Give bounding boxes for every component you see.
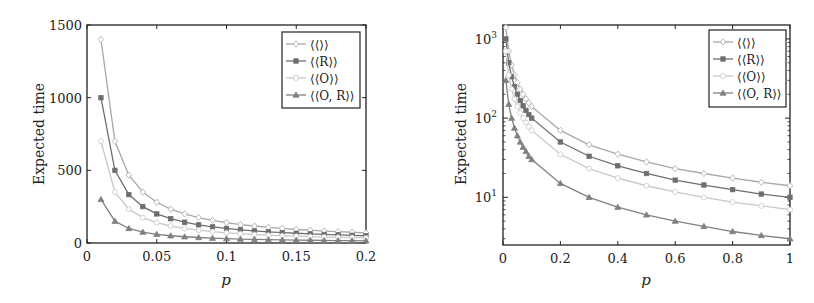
y-tick-label: 102	[475, 109, 497, 126]
series-marker	[702, 183, 706, 187]
series-marker	[112, 190, 117, 195]
series-marker	[644, 159, 650, 165]
series-marker	[788, 195, 792, 199]
series-marker	[512, 96, 517, 101]
series-o	[98, 139, 368, 241]
x-tick-label: 0.1	[216, 249, 237, 264]
x-tick-label: 0.8	[722, 251, 743, 266]
series-marker	[644, 183, 649, 188]
series-marker	[587, 166, 592, 171]
right-legend: ⟨⟨⟩⟩⟨⟨R⟩⟩⟨⟨O⟩⟩⟨⟨O, R⟩⟩	[709, 30, 786, 107]
legend-label: ⟨⟨O⟩⟩	[310, 72, 339, 86]
series-marker	[730, 187, 734, 191]
series-marker	[530, 116, 534, 120]
series-marker	[521, 104, 525, 108]
legend-label: ⟨⟨⟩⟩	[737, 36, 756, 50]
series-marker	[140, 215, 145, 220]
y-tick-label: 1000	[49, 91, 82, 106]
series-marker	[196, 228, 201, 233]
y-tick-label: 500	[57, 163, 82, 178]
series-marker	[182, 226, 187, 231]
series-marker	[759, 203, 764, 208]
right-x-axis-label: p	[641, 271, 651, 289]
right-y-axis-label: Expected time	[453, 83, 469, 185]
series-marker	[504, 37, 508, 41]
series-marker	[154, 199, 160, 205]
series-marker	[210, 229, 215, 234]
series-marker	[558, 152, 563, 157]
x-tick-label: 0.6	[665, 251, 686, 266]
series-marker	[673, 178, 677, 182]
series-marker	[587, 154, 591, 158]
series-marker	[503, 49, 508, 54]
chart-canvas: 00.050.10.150.2 050010001500 Expected ti…	[0, 0, 814, 303]
left-legend: ⟨⟨⟩⟩⟨⟨R⟩⟩⟨⟨O⟩⟩⟨⟨O, R⟩⟩	[282, 32, 360, 108]
series-marker	[787, 183, 793, 189]
series-marker	[238, 221, 244, 227]
series-marker	[759, 179, 765, 185]
x-tick-label: 0.05	[142, 249, 171, 264]
series-marker	[210, 225, 214, 229]
series-marker	[673, 189, 678, 194]
series-marker	[98, 36, 104, 42]
series-marker	[155, 212, 159, 216]
legend-label: ⟨⟨O, R⟩⟩	[310, 89, 355, 103]
series-marker	[168, 206, 174, 212]
series-marker	[210, 217, 216, 223]
series-marker	[511, 125, 517, 130]
legend-marker	[294, 59, 298, 63]
series-marker	[224, 230, 229, 235]
series-marker	[127, 192, 131, 196]
series-marker	[586, 142, 592, 148]
x-tick-label: 0	[83, 249, 91, 264]
series-marker	[514, 133, 520, 138]
legend-label: ⟨⟨R⟩⟩	[310, 55, 338, 69]
legend-marker	[294, 76, 299, 81]
legend-marker	[721, 57, 725, 61]
series-marker	[169, 217, 173, 221]
series-marker	[520, 144, 526, 149]
series-marker	[644, 171, 648, 175]
series-marker	[196, 223, 200, 227]
series-marker	[517, 139, 523, 144]
series-marker	[506, 73, 511, 78]
left-x-axis-label: p	[221, 271, 231, 289]
series-marker	[509, 115, 515, 120]
series-r	[99, 95, 368, 237]
legend-label: ⟨⟨⟩⟩	[310, 38, 329, 52]
x-tick-label: 0	[499, 251, 507, 266]
x-tick-label: 0.15	[282, 249, 311, 264]
series-marker	[224, 219, 230, 225]
figure: 00.050.10.150.2 050010001500 Expected ti…	[0, 0, 814, 303]
series-marker	[759, 192, 763, 196]
series-marker	[196, 214, 202, 220]
series-marker	[518, 98, 522, 102]
series-marker	[515, 92, 519, 96]
series-marker	[154, 220, 159, 225]
series-marker	[615, 176, 620, 181]
series-marker	[113, 168, 117, 172]
y-tick-label: 103	[475, 30, 498, 47]
series-marker	[518, 110, 523, 115]
x-tick-label: 0.2	[356, 249, 377, 264]
y-tick-label: 0	[74, 236, 82, 251]
right-chart: 00.20.40.60.81 101102103 Expected time p…	[453, 24, 794, 289]
legend-label: ⟨⟨R⟩⟩	[737, 53, 765, 67]
x-tick-label: 0.2	[550, 251, 571, 266]
series-marker	[730, 200, 735, 205]
series-marker	[98, 139, 103, 144]
left-y-axis-label: Expected time	[31, 83, 47, 185]
series-marker	[99, 95, 103, 99]
series-marker	[168, 223, 173, 228]
series-line	[101, 98, 366, 236]
series-marker	[615, 151, 621, 157]
series-marker	[112, 138, 118, 144]
legend-marker	[721, 74, 726, 79]
series-marker	[506, 101, 512, 106]
series-marker	[515, 104, 520, 109]
x-tick-label: 1	[786, 251, 794, 266]
legend-label: ⟨⟨O⟩⟩	[737, 70, 766, 84]
series-marker	[558, 140, 562, 144]
series-marker	[509, 87, 514, 92]
series-marker	[701, 170, 707, 176]
